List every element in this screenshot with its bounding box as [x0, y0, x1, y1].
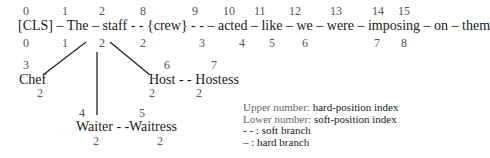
upper-index: 0 — [23, 4, 29, 19]
upper-index: 2 — [99, 4, 105, 19]
waitress-node: Waitress — [129, 119, 177, 135]
waiter-lower: 2 — [93, 134, 99, 149]
upper-index: 8 — [140, 4, 146, 19]
hostess-lower: 2 — [196, 86, 202, 101]
upper-index: 9 — [192, 4, 198, 19]
lower-index: 5 — [269, 36, 275, 51]
legend: Upper number: hard-position index Lower … — [243, 102, 399, 148]
upper-index: 12 — [289, 4, 301, 19]
upper-index: 13 — [330, 4, 342, 19]
host-hostess-node: Host - - Hostess — [149, 72, 239, 88]
lower-index: 7 — [374, 36, 380, 51]
lower-index: 0 — [23, 36, 29, 51]
upper-index: 10 — [223, 4, 235, 19]
lower-index: 2 — [99, 36, 105, 51]
lower-index: 4 — [239, 36, 245, 51]
sentence-line: [CLS] – The – staff - - {crew} - - – act… — [18, 18, 490, 34]
legend-soft-branch: - - : soft branch — [243, 125, 399, 137]
waitress-lower: 2 — [157, 134, 163, 149]
lower-index: 6 — [302, 36, 308, 51]
hostess-upper: 7 — [211, 58, 217, 73]
upper-index: 1 — [62, 4, 68, 19]
chef-lower: 2 — [37, 86, 43, 101]
lower-index: 8 — [401, 36, 407, 51]
upper-index: 11 — [254, 4, 266, 19]
lower-index: 2 — [140, 36, 146, 51]
upper-index: 15 — [398, 4, 410, 19]
lower-index: 1 — [62, 36, 68, 51]
lower-index: 3 — [199, 36, 205, 51]
host-lower: 2 — [149, 86, 155, 101]
chef-upper: 3 — [23, 58, 29, 73]
waiter-node: Waiter - - — [76, 119, 129, 135]
host-upper: 6 — [164, 58, 170, 73]
upper-index: 14 — [372, 4, 384, 19]
legend-hard-branch: – : hard branch — [243, 137, 399, 149]
